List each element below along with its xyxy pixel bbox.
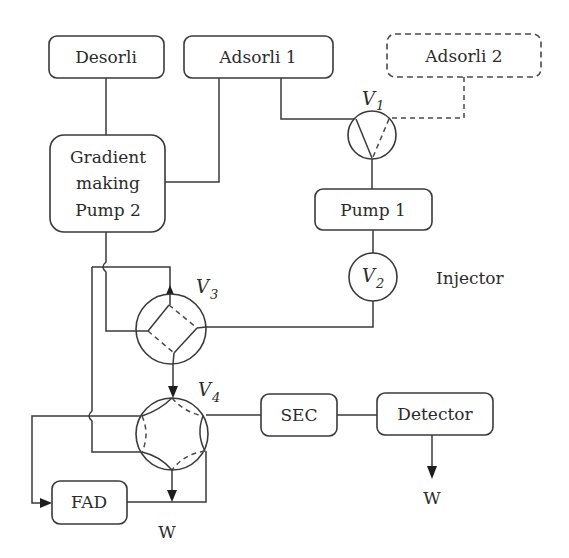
valve-v2-injector: V2 [349,253,397,301]
box-pump-1: Pump 1 [315,189,432,230]
flow-diagram: Desorli Adsorli 1 Adsorli 2 Gradient mak… [0,0,569,558]
box-sec: SEC [261,394,337,436]
box-label: Detector [397,404,473,424]
box-label: FAD [71,492,107,512]
arrow-right-icon [40,498,52,508]
arrow-down-icon [167,490,177,502]
waste-label-detector: W [423,488,441,508]
box-label-line3: Pump 2 [75,200,141,220]
box-desorli: Desorli [49,36,164,78]
box-adsorli-1: Adsorli 1 [184,36,333,78]
arrow-down-icon [427,466,437,479]
line-v2-to-v3 [206,301,373,327]
valve-v1: V1 [348,88,396,159]
box-label-line2: making [76,173,140,193]
box-label: Adsorli 2 [424,46,502,66]
box-detector: Detector [377,393,493,435]
line-adsorli1-to-pump2 [165,78,219,182]
line-loop-to-v4 [89,267,142,452]
valve-v4: V4 [136,379,220,470]
box-adsorli-2: Adsorli 2 [387,34,541,77]
box-gradient-pump-2: Gradient making Pump 2 [50,135,165,232]
valve-label: V4 [198,379,220,405]
box-label-line1: Gradient [70,147,146,167]
valve-label: V1 [362,88,384,113]
box-label: SEC [280,405,317,425]
box-label: Pump 1 [340,200,406,220]
line-pump2-to-v3 [103,232,136,331]
valve-label: V3 [196,276,218,302]
line-adsorli2-to-v1 [392,77,464,118]
line-adsorli1-to-v1 [281,78,356,119]
box-fad: FAD [52,481,127,524]
box-label: Adsorli 1 [218,47,296,67]
waste-label-fad: W [158,522,176,542]
injector-label: Injector [436,268,505,288]
box-label: Desorli [75,47,137,67]
arrow-down-icon [168,386,178,398]
valve-v3: V3 [136,276,218,364]
line-v3-top-loop [92,267,170,294]
